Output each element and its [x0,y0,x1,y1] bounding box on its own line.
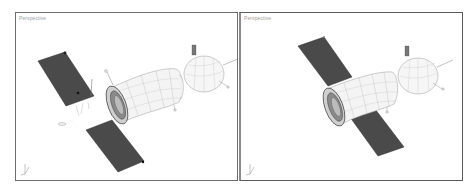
axis-gizmo-icon [245,162,255,176]
spacecraft-exploded-model [16,13,238,181]
spacecraft-assembled-model [241,13,463,181]
axis-gizmo-icon [20,162,30,176]
viewport-left[interactable]: Perspective [15,12,238,181]
viewport-right[interactable]: Perspective [239,12,463,181]
